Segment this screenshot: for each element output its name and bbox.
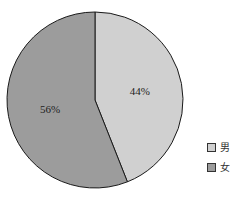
legend-swatch-male bbox=[207, 143, 216, 152]
legend-item-male: 男 bbox=[207, 142, 230, 153]
legend: 男 女 bbox=[207, 142, 230, 173]
legend-swatch-female bbox=[207, 163, 216, 172]
slice-female-label: 56% bbox=[40, 103, 60, 115]
pie-chart: 44%56% bbox=[0, 0, 237, 199]
pie-slices bbox=[7, 12, 183, 188]
legend-label-male: 男 bbox=[220, 142, 230, 153]
legend-item-female: 女 bbox=[207, 162, 230, 173]
legend-label-female: 女 bbox=[220, 162, 230, 173]
slice-male-label: 44% bbox=[130, 85, 150, 97]
